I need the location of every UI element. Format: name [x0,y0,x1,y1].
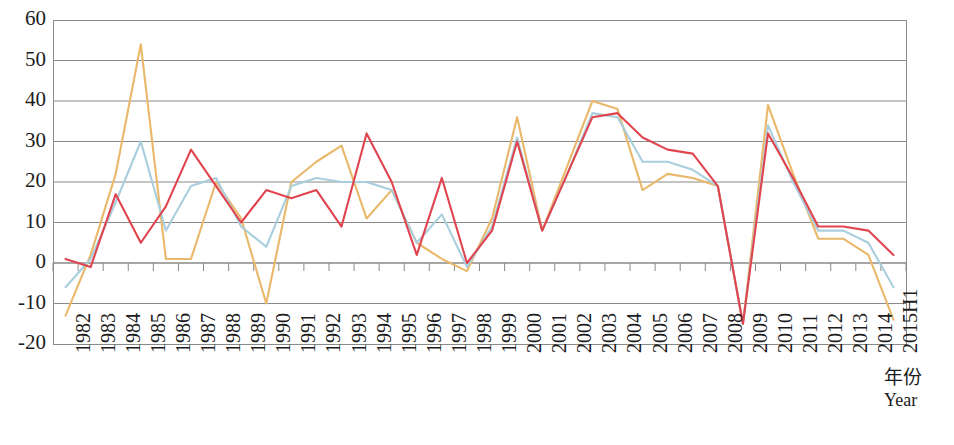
series-line-series-orange [66,44,894,323]
x-axis-title-en: Year [884,389,954,412]
x-axis-ticks [53,263,906,271]
x-axis-title: 年份 Year [884,366,954,412]
series-line-series-red [66,113,894,324]
series-line-series-blue [66,113,894,324]
chart-canvas [0,0,954,445]
x-axis-title-cn: 年份 [884,366,954,389]
series-paths [66,44,894,323]
line-chart: 6050403020100-10-20 19821983198419851986… [0,0,954,445]
